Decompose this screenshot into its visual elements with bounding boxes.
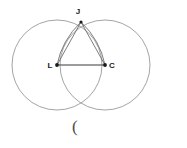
segment-apex-left [57,22,81,65]
geometry-figure: J L C [0,0,187,148]
label-right-center: C [109,61,115,70]
vertex-dot-apex [79,20,82,23]
label-apex: J [76,7,80,16]
caption-paren: ( [72,118,78,135]
vertex-dot-left-center [55,63,59,67]
label-left-center: L [48,61,53,70]
figure-canvas: J L C ( [0,0,187,148]
segment-apex-right [81,22,105,65]
vertex-dot-right-center [103,63,107,67]
